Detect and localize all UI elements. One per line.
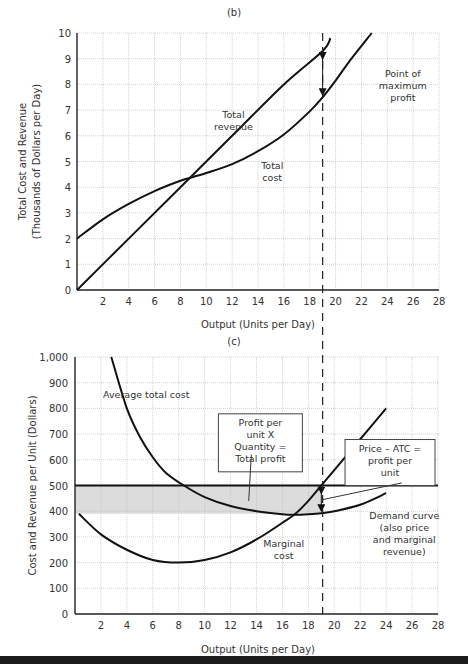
annotation-demand-curve-also-price-and-marginal-revenue: Demand curve(also priceand marginalreven… [369, 510, 439, 557]
y-tick-label: 0 [65, 285, 71, 296]
y-tick-label: 6 [65, 131, 71, 142]
annotation-text: unit X [246, 429, 274, 440]
annotation-text: Quantity = [234, 441, 286, 452]
x-tick-label: 18 [302, 620, 315, 631]
annotation-text: Profit per [239, 417, 283, 428]
y-tick-label: 900 [49, 378, 68, 389]
y-axis-title: Total Cost and Revenue [17, 103, 28, 222]
x-tick-label: 28 [432, 620, 445, 631]
x-tick-label: 16 [276, 620, 289, 631]
x-tick-label: 10 [198, 620, 211, 631]
annotation-profit-per-unit-x-quantity-total-profit: Profit perunit XQuantity =Total profit [218, 414, 302, 472]
annotation-text: Demand curve [369, 510, 439, 521]
y-tick-label: 2 [65, 234, 71, 245]
x-axis-title: Output (Units per Day) [201, 319, 315, 330]
annotation-total-cost: Totalcost [260, 160, 283, 183]
total-revenue-curve [77, 38, 330, 290]
annotation-text: maximum [379, 80, 427, 91]
y-tick-label: 700 [49, 429, 68, 440]
x-tick-label: 24 [381, 296, 394, 307]
x-tick-label: 20 [328, 620, 341, 631]
x-tick-label: 8 [176, 620, 182, 631]
y-tick-label: 0 [62, 609, 68, 620]
annotation-text: revenue) [383, 546, 426, 557]
annotation-text: Price – ATC = [359, 443, 422, 454]
y-tick-label: 200 [49, 558, 68, 569]
x-tick-label: 4 [124, 620, 130, 631]
annotation-point-of-maximum-profit: Point ofmaximumprofit [379, 68, 427, 103]
annotation-text: Average total cost [103, 389, 190, 400]
x-tick-label: 8 [177, 296, 183, 307]
annotation-text: and marginal [373, 534, 436, 545]
x-tick-label: 2 [100, 296, 106, 307]
x-tick-label: 10 [200, 296, 213, 307]
annotation-average-total-cost: Average total cost [103, 389, 190, 400]
x-tick-label: 20 [329, 296, 342, 307]
x-tick-label: 26 [407, 296, 420, 307]
x-tick-label: 26 [406, 620, 419, 631]
annotation-text: Marginal [263, 538, 304, 549]
y-tick-label: 300 [49, 532, 68, 543]
chart-canvas: 246810121416182022242628012345678910(b)O… [0, 0, 468, 664]
x-tick-label: 22 [355, 296, 368, 307]
x-tick-label: 12 [224, 620, 237, 631]
annotation-text: cost [274, 550, 294, 561]
annotation-text: cost [262, 172, 282, 183]
x-tick-label: 28 [433, 296, 446, 307]
y-tick-label: 9 [65, 54, 71, 65]
y-axis-title: Cost and Revenue per Unit (Dollars) [27, 395, 38, 575]
annotation-text: Point of [385, 68, 421, 79]
y-tick-label: 500 [49, 481, 68, 492]
y-axis-title: (Thousands of Dollars per Day) [31, 84, 42, 240]
annotation-text: Total [260, 160, 283, 171]
x-tick-label: 22 [354, 620, 367, 631]
y-tick-label: 3 [65, 208, 71, 219]
x-tick-label: 2 [98, 620, 104, 631]
x-tick-label: 14 [250, 620, 263, 631]
y-tick-label: 5 [65, 157, 71, 168]
y-tick-label: 100 [49, 583, 68, 594]
panel-label: (c) [227, 336, 240, 347]
y-tick-label: 800 [49, 403, 68, 414]
y-tick-label: 8 [65, 79, 71, 90]
annotation-total-revenue: Totalrevenue [214, 109, 253, 132]
x-tick-label: 12 [226, 296, 239, 307]
annotation-text: Total profit [234, 453, 286, 464]
x-tick-label: 14 [252, 296, 265, 307]
annotation-text: profit [390, 92, 416, 103]
chart-b: 246810121416182022242628012345678910(b)O… [17, 7, 445, 330]
annotation-text: profit per [368, 455, 412, 466]
annotation-text: unit [381, 467, 400, 478]
annotation-text: (also price [379, 522, 429, 533]
y-tick-label: 10 [58, 28, 71, 39]
annotation-marginal-cost: Marginalcost [263, 538, 304, 561]
y-tick-label: 4 [65, 182, 71, 193]
profit-shaded-region [75, 486, 321, 514]
page-bottom-band [0, 656, 468, 664]
x-tick-label: 6 [150, 620, 156, 631]
x-axis-title: Output (Units per Day) [201, 644, 315, 655]
x-tick-label: 6 [151, 296, 157, 307]
chart-c: 2468101214161820222426280100200300400500… [27, 336, 444, 655]
y-tick-label: 1,000 [39, 352, 68, 363]
x-tick-label: 16 [277, 296, 290, 307]
y-tick-label: 1 [65, 259, 71, 270]
x-tick-label: 24 [380, 620, 393, 631]
y-tick-label: 400 [49, 506, 68, 517]
annotation-price-atc-profit-per-unit: Price – ATC =profit perunit [345, 440, 435, 486]
annotation-text: Total [221, 109, 244, 120]
x-tick-label: 4 [126, 296, 132, 307]
y-tick-label: 600 [49, 455, 68, 466]
y-tick-label: 7 [65, 105, 71, 116]
panel-label: (b) [227, 7, 241, 18]
x-tick-label: 18 [303, 296, 316, 307]
annotation-text: revenue [214, 121, 253, 132]
